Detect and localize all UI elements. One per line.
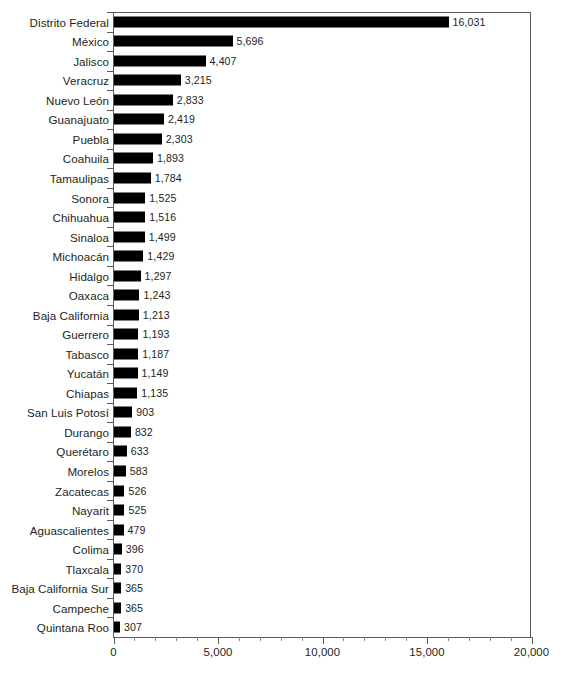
- bar-value-label: 1,193: [142, 328, 169, 340]
- bar: [114, 524, 124, 535]
- y-axis-tick: [107, 149, 113, 150]
- bar-value-label: 1,213: [143, 309, 170, 321]
- category-label: Yucatán: [67, 367, 109, 380]
- y-axis-tick: [107, 266, 113, 267]
- bar-row: Coahuila1,893: [0, 149, 564, 169]
- y-axis-tick: [107, 500, 113, 501]
- category-label: Querétaro: [56, 445, 109, 458]
- category-label: Nayarit: [72, 504, 109, 517]
- bar: [114, 602, 122, 613]
- bar-value-label: 903: [136, 406, 154, 418]
- bar: [114, 114, 165, 125]
- bar: [114, 348, 139, 359]
- bar: [114, 622, 120, 633]
- bar-value-label: 3,215: [185, 74, 212, 86]
- bar-row: Guerrero1,193: [0, 325, 564, 345]
- x-axis-tick-label: 5,000: [203, 646, 232, 658]
- bar: [114, 16, 449, 27]
- bar-rows: Distrito Federal16,031México5,696Jalisco…: [0, 12, 564, 637]
- bar-value-label: 1,243: [143, 289, 170, 301]
- category-label: Guanajuato: [49, 113, 109, 126]
- y-axis-tick: [107, 539, 113, 540]
- bar: [114, 485, 125, 496]
- y-axis-tick: [107, 481, 113, 482]
- category-label: Durango: [64, 425, 109, 438]
- category-label: Chihuahua: [52, 211, 109, 224]
- category-label: Baja California: [33, 308, 109, 321]
- bar: [114, 407, 133, 418]
- bar: [114, 583, 122, 594]
- y-axis-tick: [107, 559, 113, 560]
- bar: [114, 55, 206, 66]
- bar-value-label: 2,419: [168, 113, 195, 125]
- category-label: Puebla: [73, 132, 109, 145]
- y-axis-tick: [107, 578, 113, 579]
- category-label: Guerrero: [62, 328, 109, 341]
- y-axis-tick: [107, 598, 113, 599]
- y-axis-tick: [107, 51, 113, 52]
- y-axis-tick: [107, 129, 113, 130]
- category-label: San Luis Potosí: [27, 406, 109, 419]
- bar-value-label: 1,499: [149, 231, 176, 243]
- bar-row: Jalisco4,407: [0, 51, 564, 71]
- bar-value-label: 479: [128, 524, 146, 536]
- x-axis-minor-tick: [281, 637, 282, 641]
- bar: [114, 192, 146, 203]
- category-label: Campeche: [53, 601, 109, 614]
- category-label: Hidalgo: [69, 269, 109, 282]
- bar-value-label: 1,525: [149, 192, 176, 204]
- bar-row: Tabasco1,187: [0, 344, 564, 364]
- y-axis-tick: [107, 325, 113, 326]
- x-axis-minor-tick: [490, 637, 491, 641]
- x-axis-major-tick: [114, 637, 115, 644]
- category-label: Morelos: [67, 464, 109, 477]
- x-axis-major-tick: [532, 637, 533, 644]
- bar: [114, 446, 127, 457]
- x-axis-major-tick: [427, 637, 428, 644]
- bar-row: San Luis Potosí903: [0, 403, 564, 423]
- bar-value-label: 526: [128, 485, 146, 497]
- bar: [114, 251, 144, 262]
- bar: [114, 505, 125, 516]
- category-label: Oaxaca: [69, 289, 109, 302]
- bar: [114, 387, 138, 398]
- x-axis-minor-tick: [448, 637, 449, 641]
- bar: [114, 212, 146, 223]
- bar-row: Durango832: [0, 422, 564, 442]
- x-axis-minor-tick: [134, 637, 135, 641]
- x-axis-major-tick: [218, 637, 219, 644]
- bar-row: Puebla2,303: [0, 129, 564, 149]
- bar-row: Yucatán1,149: [0, 364, 564, 384]
- y-axis-tick: [107, 422, 113, 423]
- bar-value-label: 633: [131, 445, 149, 457]
- bar-row: Aguascalientes479: [0, 520, 564, 540]
- bar-value-label: 1,893: [157, 152, 184, 164]
- bar: [114, 309, 139, 320]
- bar-value-label: 5,696: [237, 35, 264, 47]
- category-label: Quintana Roo: [37, 621, 109, 634]
- bar-value-label: 2,833: [177, 94, 204, 106]
- bar-row: Colima396: [0, 539, 564, 559]
- category-label: Michoacán: [52, 250, 109, 263]
- x-axis-minor-tick: [343, 637, 344, 641]
- y-axis-tick: [107, 246, 113, 247]
- bar-value-label: 2,303: [166, 133, 193, 145]
- category-label: Tlaxcala: [65, 562, 109, 575]
- x-axis-tick-label: 0: [110, 646, 116, 658]
- bar-row: Michoacán1,429: [0, 246, 564, 266]
- x-axis-minor-tick: [469, 637, 470, 641]
- bar: [114, 153, 154, 164]
- bar-value-label: 1,135: [141, 387, 168, 399]
- bar-row: Tlaxcala370: [0, 559, 564, 579]
- bar-value-label: 365: [125, 602, 143, 614]
- bar-row: Sonora1,525: [0, 188, 564, 208]
- category-label: Aguascalientes: [30, 523, 109, 536]
- y-axis-tick: [107, 227, 113, 228]
- category-label: Veracruz: [63, 74, 109, 87]
- bar: [114, 133, 162, 144]
- bar-row: Morelos583: [0, 461, 564, 481]
- bar-value-label: 583: [130, 465, 148, 477]
- y-axis-tick: [107, 32, 113, 33]
- bar-value-label: 525: [128, 504, 146, 516]
- x-axis-minor-tick: [302, 637, 303, 641]
